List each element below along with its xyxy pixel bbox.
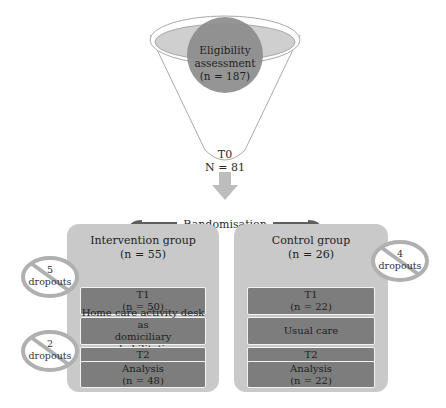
t0-title: T0 — [185, 148, 265, 161]
intervention-step-analysis: Analysis (n = 48) — [80, 361, 206, 388]
eligibility-line1: Eligibility — [185, 44, 265, 57]
eligibility-count: (n = 187) — [185, 70, 265, 83]
eligibility-label: Eligibility assessment (n = 187) — [185, 44, 265, 83]
down-arrow-icon — [212, 172, 238, 200]
dropout-count: 5 — [20, 264, 80, 276]
intervention-count: (n = 55) — [67, 248, 219, 262]
dropout-count: 2 — [20, 338, 80, 350]
dropout-label: dropouts — [20, 350, 80, 362]
step-label: Usual care — [248, 325, 374, 337]
step-count: (n = 22) — [248, 375, 374, 387]
step-count: (n = 48) — [81, 375, 205, 387]
control-group-title: Control group (n = 26) — [234, 234, 388, 262]
step-label: T2 — [248, 349, 374, 361]
control-title: Control group — [234, 234, 388, 248]
step-label: Home care activity desk as — [81, 307, 205, 331]
step-label: T2 — [81, 349, 205, 361]
control-dropouts: 4 dropouts — [370, 240, 430, 282]
t0-label: T0 N = 81 — [185, 148, 265, 174]
step-label: Analysis — [248, 363, 374, 375]
control-step-t1: T1 (n = 22) — [247, 287, 375, 315]
step-label: Analysis — [81, 363, 205, 375]
control-step-usual-care: Usual care — [247, 317, 375, 345]
intervention-dropouts-1: 5 dropouts — [20, 256, 80, 298]
dropout-label: dropouts — [20, 276, 80, 288]
t0-count: N = 81 — [185, 161, 265, 174]
step-count: (n = 22) — [248, 301, 374, 313]
eligibility-line2: assessment — [185, 57, 265, 70]
control-count: (n = 26) — [234, 248, 388, 262]
step-label: T1 — [248, 289, 374, 301]
intervention-group-title: Intervention group (n = 55) — [67, 234, 219, 262]
step-label: T1 — [81, 289, 205, 301]
dropout-count: 4 — [370, 248, 430, 260]
intervention-dropouts-2: 2 dropouts — [20, 330, 80, 372]
control-step-analysis: Analysis (n = 22) — [247, 361, 375, 388]
dropout-label: dropouts — [370, 260, 430, 272]
intervention-step-home-care: Home care activity desk as domiciliary r… — [80, 317, 206, 345]
intervention-title: Intervention group — [67, 234, 219, 248]
